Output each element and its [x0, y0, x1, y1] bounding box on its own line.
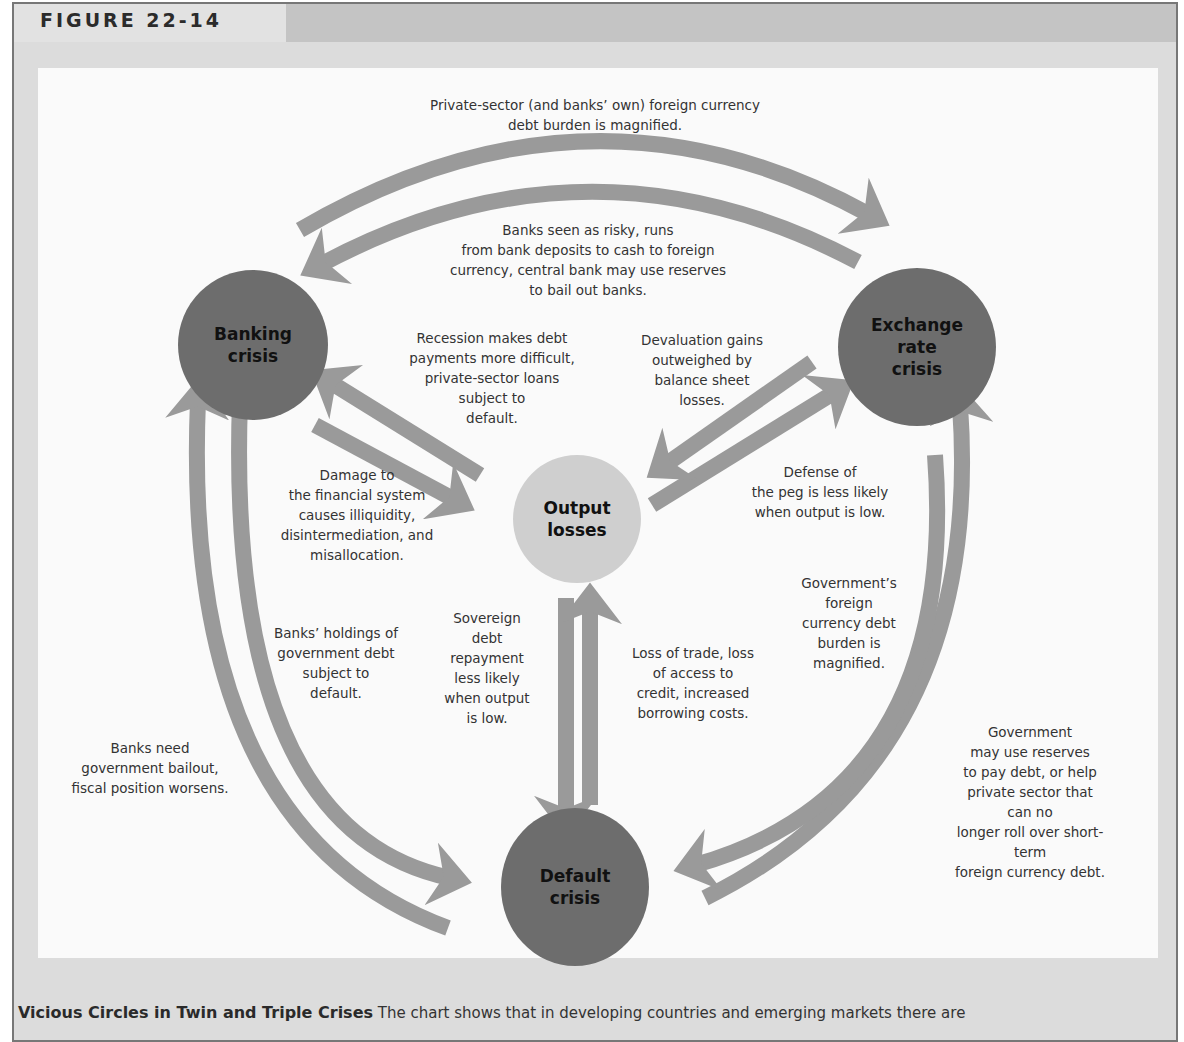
label-devaluation: Devaluation gainsoutweighed bybalance sh… — [641, 330, 763, 410]
caption-title: Vicious Circles in Twin and Triple Crise… — [18, 1003, 373, 1022]
label-loss-trade: Loss of trade, lossof access tocredit, i… — [632, 643, 754, 723]
node-exchange-rate-crisis: Exchangeratecrisis — [838, 268, 996, 426]
node-default-crisis: Defaultcrisis — [501, 808, 649, 966]
label-recession: Recession makes debtpayments more diffic… — [409, 328, 574, 428]
label-top-outer: Private-sector (and banks’ own) foreign … — [430, 95, 760, 135]
label-gov-foreign: Government’sforeigncurrency debtburden i… — [801, 573, 897, 673]
label-top-inner: Banks seen as risky, runsfrom bank depos… — [450, 220, 726, 300]
figure-caption: Vicious Circles in Twin and Triple Crise… — [18, 1003, 1178, 1022]
caption-text: The chart shows that in developing count… — [378, 1004, 966, 1022]
label-damage: Damage tothe financial systemcauses illi… — [281, 465, 433, 565]
label-gov-reserves: Governmentmay use reservesto pay debt, o… — [953, 722, 1107, 882]
node-banking-crisis: Bankingcrisis — [178, 270, 328, 420]
label-banks-need: Banks needgovernment bailout,fiscal posi… — [71, 738, 228, 798]
node-output-losses: Outputlosses — [513, 455, 641, 583]
label-banks-holdings: Banks’ holdings ofgovernment debtsubject… — [274, 623, 398, 703]
label-defense: Defense ofthe peg is less likelywhen out… — [752, 462, 889, 522]
label-sovereign: Sovereigndebtrepaymentless likelywhen ou… — [444, 608, 529, 728]
